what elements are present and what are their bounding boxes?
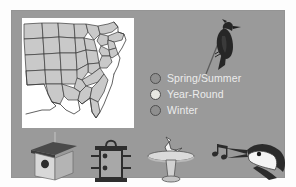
legend-item-label: Winter [167, 105, 198, 116]
birdhouse-icon[interactable] [25, 132, 81, 186]
legend-item-year-round[interactable]: Year-Round [150, 87, 278, 102]
legend: Spring/Summer Year-Round Winter [150, 71, 278, 119]
woodpecker-illustration [192, 18, 254, 76]
circle-swatch-icon [150, 89, 161, 100]
birdbath-icon[interactable] [141, 132, 201, 186]
circle-swatch-icon [150, 73, 161, 84]
singing-bird-head-icon[interactable] [207, 132, 293, 186]
circle-swatch-icon [150, 105, 161, 116]
icon-strip [25, 132, 293, 186]
legend-item-spring-summer[interactable]: Spring/Summer [150, 71, 278, 86]
main-panel: Spring/Summer Year-Round Winter [11, 10, 285, 178]
legend-item-winter[interactable]: Winter [150, 103, 278, 118]
bird-feeder-icon[interactable] [87, 132, 135, 186]
legend-item-label: Year-Round [167, 89, 224, 100]
screenshot-root: Spring/Summer Year-Round Winter [0, 0, 296, 187]
us-range-map[interactable] [22, 18, 134, 128]
legend-item-label: Spring/Summer [167, 73, 241, 84]
